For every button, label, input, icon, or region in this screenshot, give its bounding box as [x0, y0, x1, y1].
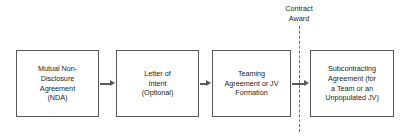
process-box-letter-of-intent-label: Letter of Intent (Optional)	[140, 69, 176, 98]
process-box-subcontracting-agreement-label: Subcontracting Agreement (for a Team or …	[323, 64, 381, 102]
process-box-nda-label: Mutual Non- Disclosure Agreement (NDA)	[36, 64, 79, 102]
arrow-shaft	[100, 83, 110, 85]
arrow-right-icon-nda-to-loi	[100, 80, 115, 87]
arrow-right-icon-loi-to-teaming	[200, 80, 211, 87]
process-box-subcontracting-agreement[interactable]: Subcontracting Agreement (for a Team or …	[310, 50, 394, 117]
contract-award-milestone-line	[299, 26, 300, 132]
arrow-shaft	[200, 83, 206, 85]
flowchart-canvas: Contract Award Mutual Non- Disclosure Ag…	[0, 0, 406, 138]
arrow-right-icon-teaming-to-subk	[292, 80, 309, 87]
process-box-letter-of-intent[interactable]: Letter of Intent (Optional)	[116, 50, 199, 117]
arrow-shaft	[292, 83, 304, 85]
arrow-head	[304, 80, 309, 86]
arrow-head	[110, 80, 115, 86]
arrow-head	[206, 80, 211, 86]
process-box-teaming-agreement-label: Teaming Agreement or JV Formation	[222, 69, 280, 98]
contract-award-label: Contract Award	[259, 4, 339, 23]
process-box-nda[interactable]: Mutual Non- Disclosure Agreement (NDA)	[16, 50, 99, 117]
process-box-teaming-agreement[interactable]: Teaming Agreement or JV Formation	[212, 50, 291, 117]
